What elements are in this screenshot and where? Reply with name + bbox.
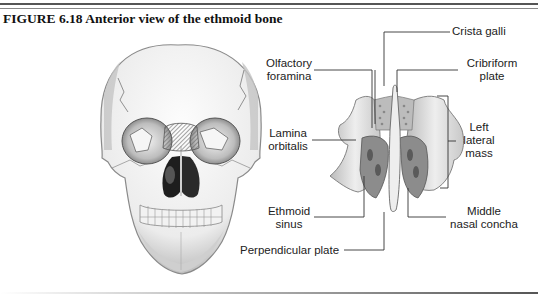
- label-middle-nasal-concha: Middle nasal concha: [446, 205, 522, 231]
- label-perpendicular-plate: Perpendicular plate: [240, 244, 339, 257]
- label-lamina-orbitalis: Lamina orbitalis: [264, 127, 312, 153]
- label-cribriform-plate: Cribriform plate: [460, 57, 524, 83]
- leader-perpendicular-plate: [344, 212, 384, 250]
- skull-anterior-view: [101, 45, 261, 274]
- label-left-lateral-mass: Left lateral mass: [457, 121, 501, 160]
- leader-crista-galli: [384, 32, 450, 86]
- label-ethmoid-sinus: Ethmoid sinus: [266, 205, 312, 231]
- leader-cribriform-plate: [397, 70, 458, 92]
- bottom-rule: [0, 292, 538, 294]
- label-olfactory-foramina: Olfactory foramina: [264, 57, 314, 83]
- ethmoid-bone-illustration: [330, 85, 464, 212]
- label-crista-galli: Crista galli: [452, 25, 506, 38]
